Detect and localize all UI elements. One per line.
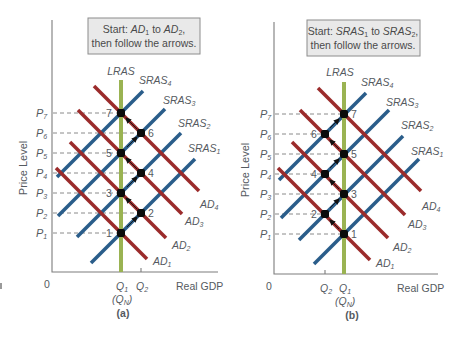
ad2-curve-b bbox=[292, 142, 388, 238]
arrows-a bbox=[126, 118, 137, 227]
svg-text:2: 2 bbox=[311, 208, 317, 220]
svg-text:3: 3 bbox=[351, 188, 357, 200]
point-4-b bbox=[321, 170, 329, 178]
svg-text:5: 5 bbox=[351, 148, 357, 160]
svg-text:4: 4 bbox=[311, 168, 317, 180]
svg-text:6: 6 bbox=[311, 128, 317, 140]
ad3-label-b: AD3 bbox=[407, 218, 427, 231]
instruction-line1-b: Start: SRAS1 to SRAS2, bbox=[308, 25, 419, 38]
instruction-box-b: Start: SRAS1 to SRAS2, then follow the a… bbox=[307, 20, 420, 56]
ad4-label-b: AD4 bbox=[421, 200, 441, 213]
q1-label-a: Q1 bbox=[116, 280, 128, 293]
svg-text:4: 4 bbox=[148, 167, 154, 179]
x-axis-label-b: Real GDP bbox=[397, 282, 444, 294]
sras1-label-a: SRAS1 bbox=[188, 142, 221, 155]
svg-text:3: 3 bbox=[106, 187, 112, 199]
sras3-label-a: SRAS3 bbox=[163, 94, 196, 107]
point-6-a bbox=[137, 129, 145, 137]
instruction-box-a: Start: AD1 to AD2, then follow the arrow… bbox=[88, 18, 200, 54]
qn-label-b: (QN) bbox=[335, 295, 355, 308]
svg-text:7: 7 bbox=[351, 108, 357, 120]
qn-label-a: (QN) bbox=[112, 293, 132, 306]
ad2-label-a: AD2 bbox=[171, 239, 191, 252]
point-2-b bbox=[321, 210, 329, 218]
svg-text:1: 1 bbox=[351, 228, 357, 240]
point-5-a bbox=[117, 149, 125, 157]
price-label-p4-a: P4 bbox=[36, 167, 47, 180]
ad1-label-a: AD1 bbox=[152, 255, 172, 268]
point-5-b bbox=[340, 150, 348, 158]
q1-label-b: Q1 bbox=[339, 282, 351, 295]
price-label-p6-b: P6 bbox=[260, 128, 271, 141]
price-label-p1-b: P1 bbox=[260, 228, 271, 241]
ad2-label-b: AD2 bbox=[392, 241, 412, 254]
sras3-label-b: SRAS3 bbox=[386, 96, 419, 109]
point-3-b bbox=[340, 190, 348, 198]
point-2-a bbox=[137, 209, 145, 217]
price-label-p3-b: P3 bbox=[260, 188, 271, 201]
arrows-b bbox=[330, 119, 339, 229]
price-label-p6-a: P6 bbox=[36, 127, 47, 140]
edge-artifact bbox=[0, 283, 2, 289]
origin-label-b: 0 bbox=[266, 280, 272, 292]
point-4-a bbox=[137, 169, 145, 177]
sras2-label-b: SRAS2 bbox=[401, 119, 434, 132]
instruction-line2-b: then follow the arrows. bbox=[310, 39, 415, 51]
price-label-p3-a: P3 bbox=[36, 187, 47, 200]
sras4-label-b: SRAS4 bbox=[361, 76, 394, 89]
price-label-p1-a: P1 bbox=[36, 227, 47, 240]
y-axis-label-a: Price Level bbox=[17, 141, 29, 195]
point-3-a bbox=[117, 189, 125, 197]
point-7-b bbox=[340, 110, 348, 118]
svg-text:2: 2 bbox=[148, 207, 154, 219]
price-label-p7-a: P7 bbox=[36, 107, 48, 120]
point-7-a bbox=[117, 109, 125, 117]
ad3-label-a: AD3 bbox=[184, 215, 204, 228]
q2-label-b: Q2 bbox=[320, 282, 332, 295]
ad1-label-b: AD1 bbox=[375, 257, 395, 270]
svg-text:5: 5 bbox=[106, 147, 112, 159]
point-1-a bbox=[117, 229, 125, 237]
price-labels-a: P1 P2 P3 P4 P5 P6 P7 bbox=[36, 107, 48, 240]
svg-text:6: 6 bbox=[148, 127, 154, 139]
price-label-p5-b: P5 bbox=[260, 148, 271, 161]
caption-a: (a) bbox=[117, 307, 130, 319]
svg-text:7: 7 bbox=[106, 107, 112, 119]
price-label-p2-a: P2 bbox=[36, 207, 47, 220]
price-labels-b: P1 P2 P3 P4 P5 P6 P7 bbox=[260, 108, 272, 241]
svg-text:1: 1 bbox=[106, 227, 112, 239]
ad4-label-a: AD4 bbox=[199, 198, 219, 211]
price-label-p5-a: P5 bbox=[36, 147, 47, 160]
caption-b: (b) bbox=[345, 309, 358, 321]
point-1-b bbox=[340, 230, 348, 238]
price-label-p2-b: P2 bbox=[260, 208, 271, 221]
lras-label-a: LRAS bbox=[107, 65, 134, 77]
lras-label-b: LRAS bbox=[326, 66, 353, 78]
panel-b: Start: SRAS1 to SRAS2, then follow the a… bbox=[239, 20, 444, 321]
x-axis-label-a: Real GDP bbox=[176, 280, 223, 292]
sras3-curve-a bbox=[58, 109, 165, 216]
panel-a: Start: AD1 to AD2, then follow the arrow… bbox=[17, 18, 223, 319]
sras4-label-a: SRAS4 bbox=[139, 74, 172, 87]
diagram-canvas: Start: AD1 to AD2, then follow the arrow… bbox=[0, 0, 456, 337]
q2-label-a: Q2 bbox=[136, 280, 148, 293]
instruction-line2-a: then follow the arrows. bbox=[91, 37, 196, 49]
origin-label-a: 0 bbox=[44, 278, 50, 290]
sras2-label-a: SRAS2 bbox=[178, 117, 211, 130]
price-label-p4-b: P4 bbox=[260, 168, 271, 181]
point-6-b bbox=[321, 130, 329, 138]
instruction-line1-a: Start: AD1 to AD2, bbox=[103, 23, 186, 36]
price-label-p7-b: P7 bbox=[260, 108, 272, 121]
y-axis-label-b: Price Level bbox=[239, 143, 251, 197]
sras1-label-b: SRAS1 bbox=[411, 145, 444, 158]
